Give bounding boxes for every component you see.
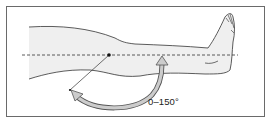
range-label: 0–150° [148,96,179,107]
knee-pivot-point [107,53,111,57]
leg-silhouette [29,14,235,79]
knee-flexion-diagram [0,0,273,124]
